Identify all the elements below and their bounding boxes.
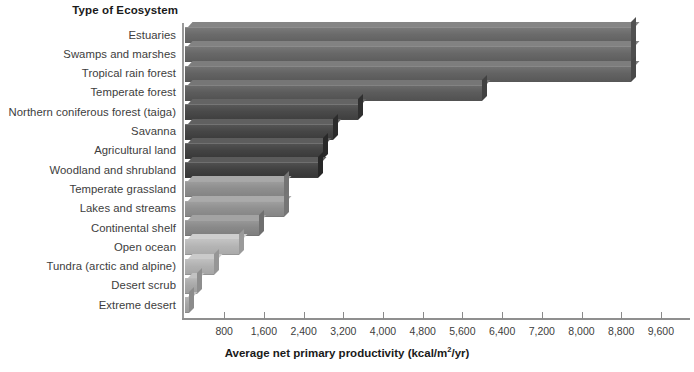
x-axis-tick-label: 800	[215, 325, 233, 337]
category-label: Continental shelf	[0, 222, 176, 234]
category-label: Savanna	[0, 125, 176, 137]
x-axis-tick-label: 4,800	[410, 325, 436, 337]
bar-top-face	[188, 157, 326, 162]
bar-side-face	[197, 268, 202, 294]
x-axis-tick	[304, 312, 305, 319]
category-label: Agricultural land	[0, 144, 176, 156]
bar-top-face	[188, 234, 247, 239]
bar-side-face	[259, 210, 264, 236]
bar-side-face	[323, 133, 328, 159]
bar-top-face	[188, 80, 490, 85]
bar-front-face	[185, 104, 359, 120]
bar-top-face	[188, 138, 331, 143]
category-label: Northern coniferous forest (taiga)	[0, 106, 176, 118]
x-axis-tick	[462, 312, 463, 319]
x-axis-tick	[502, 312, 503, 319]
x-axis-tick	[343, 312, 344, 319]
bar-side-face	[318, 152, 323, 178]
x-axis-line	[182, 318, 690, 320]
category-label: Tropical rain forest	[0, 67, 176, 79]
x-axis-tick-label: 2,400	[290, 325, 316, 337]
category-label: Open ocean	[0, 241, 176, 253]
bar-top-face	[188, 215, 267, 220]
category-label: Temperate forest	[0, 86, 176, 98]
category-label: Swamps and marshes	[0, 48, 176, 60]
bar-side-face	[482, 75, 487, 101]
x-axis-tick	[582, 312, 583, 319]
x-axis-title-suffix: /yr)	[451, 347, 469, 359]
bar-front-face	[185, 239, 240, 255]
category-label: Estuaries	[0, 29, 176, 41]
x-axis-tick-label: 9,600	[648, 325, 674, 337]
category-label: Woodland and shrubland	[0, 164, 176, 176]
bar-side-face	[284, 191, 289, 217]
bar-side-face	[239, 229, 244, 255]
x-axis-title-prefix: Average net primary productivity (kcal/m	[225, 347, 448, 359]
x-axis-tick	[423, 312, 424, 319]
x-axis-tick	[264, 312, 265, 319]
bar-side-face	[333, 114, 338, 140]
bar-top-face	[188, 119, 341, 124]
category-label: Temperate grassland	[0, 183, 176, 195]
bar-top-face	[188, 22, 639, 27]
category-label: Lakes and streams	[0, 202, 176, 214]
x-axis-tick-label: 8,000	[568, 325, 594, 337]
x-axis-tick-label: 8,800	[608, 325, 634, 337]
bar-top-face	[188, 41, 639, 46]
bar-top-face	[188, 61, 639, 66]
x-axis-tick-label: 1,600	[251, 325, 277, 337]
x-axis-tick-label: 3,200	[330, 325, 356, 337]
x-axis-tick	[383, 312, 384, 319]
x-axis-tick-label: 6,400	[489, 325, 515, 337]
x-axis-title: Average net primary productivity (kcal/m…	[0, 345, 694, 359]
x-axis-tick	[661, 312, 662, 319]
x-axis-tick	[621, 312, 622, 319]
category-label: Desert scrub	[0, 279, 176, 291]
category-label: Tundra (arctic and alpine)	[0, 260, 176, 272]
bar-side-face	[214, 249, 219, 275]
productivity-bar-chart: Type of Ecosystem Average net primary pr…	[0, 0, 694, 372]
bar-side-face	[358, 94, 363, 120]
bar-front-face	[185, 181, 284, 197]
bar-top-face	[188, 99, 366, 104]
bar-top-face	[188, 176, 292, 181]
bar-front-face	[185, 46, 632, 62]
bar-side-face	[189, 287, 194, 313]
category-label: Extreme desert	[0, 299, 176, 311]
x-axis-tick	[542, 312, 543, 319]
x-axis-tick-label: 7,200	[529, 325, 555, 337]
x-axis-tick-label: 4,000	[370, 325, 396, 337]
x-axis-tick-label: 5,600	[449, 325, 475, 337]
bar-side-face	[631, 56, 636, 82]
bar-top-face	[188, 196, 292, 201]
x-axis-tick	[224, 312, 225, 319]
